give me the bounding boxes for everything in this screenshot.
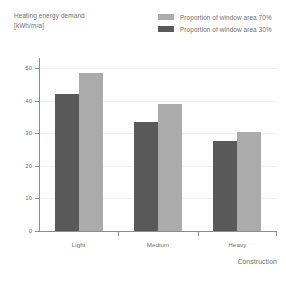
legend-item-window-30: Proportion of window area 30%: [158, 24, 272, 34]
y-axis-tick-label: 30: [25, 130, 32, 136]
x-axis-tick: [198, 232, 199, 236]
x-axis-tick: [118, 232, 119, 236]
gridline: [40, 68, 277, 69]
x-axis-title: Construction: [237, 258, 277, 265]
y-axis-tick: [35, 101, 39, 102]
bar: [134, 122, 158, 231]
x-axis-category-label: Medium: [147, 241, 170, 248]
y-axis-tick-label: 50: [25, 65, 32, 71]
y-axis-title: Heating energy demand [kWh/m²a]: [14, 11, 85, 30]
chart-figure: Heating energy demand [kWh/m²a] Proporti…: [0, 0, 286, 285]
bar: [237, 132, 261, 231]
x-axis-category-label: Heavy: [228, 241, 246, 248]
bar: [55, 94, 79, 231]
y-axis-tick-label: 10: [25, 195, 32, 201]
y-axis-title-line1: Heating energy demand: [14, 12, 85, 19]
legend-label-window-30: Proportion of window area 30%: [180, 26, 272, 33]
y-axis-tick: [35, 166, 39, 167]
legend-swatch-window-70: [158, 14, 174, 20]
y-axis-title-line2: [kWh/m²a]: [14, 21, 85, 31]
bar: [213, 141, 237, 231]
legend-item-window-70: Proportion of window area 70%: [158, 12, 272, 22]
y-axis-tick: [35, 68, 39, 69]
y-axis-tick: [35, 198, 39, 199]
y-axis-tick-label: 20: [25, 163, 32, 169]
chart-legend: Proportion of window area 70% Proportion…: [158, 12, 272, 36]
plot-area: 01020304050: [39, 58, 277, 232]
y-axis-tick: [35, 231, 39, 232]
x-axis-tick: [276, 232, 277, 236]
bar: [158, 104, 182, 231]
y-axis-tick: [35, 133, 39, 134]
bar: [79, 73, 103, 231]
legend-swatch-window-30: [158, 26, 174, 32]
y-axis-tick-label: 0: [29, 228, 32, 234]
x-axis-category-label: Light: [72, 241, 86, 248]
legend-label-window-70: Proportion of window area 70%: [180, 14, 272, 21]
y-axis-tick-label: 40: [25, 98, 32, 104]
